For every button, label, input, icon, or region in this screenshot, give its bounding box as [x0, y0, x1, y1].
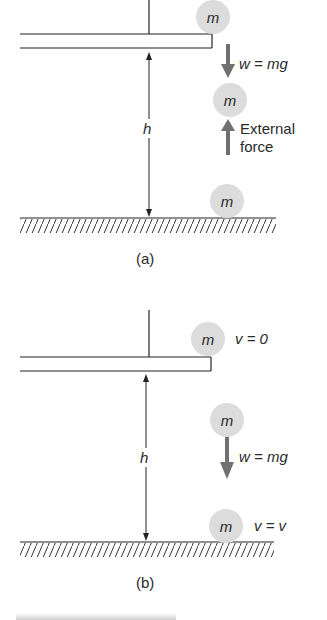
velocity-top-label-b: v = 0 [235, 331, 268, 346]
height-label-a: h [143, 119, 151, 138]
mass-ball-middle-a: m [213, 83, 247, 117]
weight-label-b: w = mg [239, 449, 288, 464]
caption-b-text: (b) [136, 574, 154, 591]
mass-label: m [221, 193, 234, 210]
mass-ball-middle-b: m [210, 403, 244, 437]
weight-arrow-shaft [226, 44, 230, 66]
ground-hatching [20, 219, 276, 233]
caption-a-text: (a) [136, 250, 154, 267]
external-force-label-line1: External [240, 121, 295, 136]
height-arrow-up-icon [146, 52, 152, 60]
height-arrow-up-icon [143, 374, 149, 382]
weight-arrow-shaft [225, 436, 229, 464]
weight-label-a: w = mg [239, 56, 288, 71]
mass-label: m [224, 92, 237, 109]
mass-label: m [221, 412, 234, 429]
height-arrow-down-icon [146, 209, 152, 217]
caption-a: (a) [136, 251, 154, 266]
external-force-arrow-up-icon [221, 119, 235, 131]
mass-ball-bottom-a: m [210, 184, 244, 218]
mass-ball-bottom-b: m [209, 509, 243, 543]
height-label-b: h [140, 448, 148, 467]
weight-arrow-down-icon [221, 64, 235, 78]
external-force-label-line2: force [240, 139, 273, 154]
height-arrow-down-icon [143, 533, 149, 541]
mass-label: m [220, 518, 233, 535]
mass-ball-top-b: m [191, 322, 225, 356]
mass-label: m [202, 331, 215, 348]
mass-ball-top-a: m [196, 0, 230, 34]
clipped-figure-caption [16, 613, 176, 620]
mass-label: m [207, 9, 220, 26]
velocity-bottom-label-b: v = v [254, 518, 286, 533]
weight-arrow-down-icon [220, 462, 234, 479]
external-force-arrow-shaft [226, 130, 230, 155]
caption-b: (b) [136, 575, 154, 590]
ground-hatching [20, 543, 274, 557]
